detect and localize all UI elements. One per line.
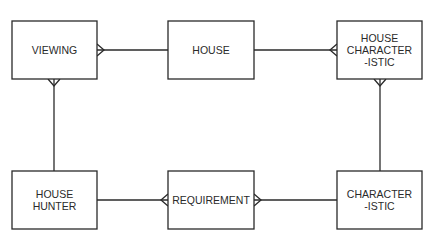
entity-label-line-2: -ISTIC: [364, 200, 395, 212]
entity-house-characteristic[interactable]: HOUSE CHARACTER -ISTIC: [337, 21, 422, 79]
entity-house-hunter[interactable]: HOUSE HUNTER: [12, 171, 97, 229]
entity-label-line-2: HUNTER: [33, 200, 77, 212]
entity-label-line-1: CHARACTER: [347, 188, 413, 200]
entity-house[interactable]: HOUSE: [168, 21, 254, 79]
entity-label: VIEWING: [32, 44, 78, 56]
entity-label: REQUIREMENT: [172, 194, 250, 206]
entity-viewing[interactable]: VIEWING: [12, 21, 97, 79]
entity-label-line-2: CHARACTER: [347, 44, 413, 56]
er-diagram: VIEWING HOUSE HOUSE CHARACTER -ISTIC HOU…: [0, 0, 437, 242]
entity-label: HOUSE: [192, 44, 229, 56]
entity-label-line-1: HOUSE: [361, 32, 398, 44]
entity-requirement[interactable]: REQUIREMENT: [168, 171, 254, 229]
entity-label-line-3: -ISTIC: [364, 56, 395, 68]
entity-label-line-1: HOUSE: [36, 188, 73, 200]
entity-characteristic[interactable]: CHARACTER -ISTIC: [337, 171, 422, 229]
